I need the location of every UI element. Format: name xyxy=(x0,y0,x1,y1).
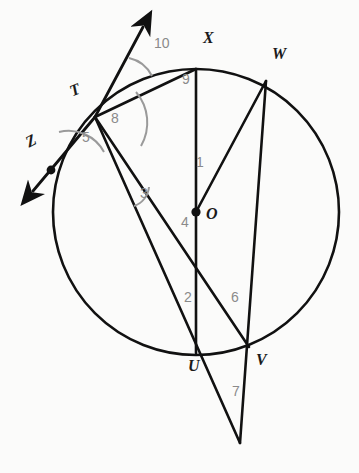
segment-W-to-apex xyxy=(240,81,266,443)
angle-label-10: 10 xyxy=(154,36,170,50)
angle-label-2: 2 xyxy=(184,290,192,304)
angle-label-1: 1 xyxy=(196,155,204,169)
angle-label-9: 9 xyxy=(182,72,190,86)
point-label-V: V xyxy=(256,352,267,368)
angle-label-5: 5 xyxy=(82,130,90,144)
center-dot xyxy=(191,207,200,216)
angle-label-6: 6 xyxy=(231,290,239,304)
segment-OW xyxy=(196,81,266,212)
angle-label-7: 7 xyxy=(232,384,240,398)
angle-arc-10 xyxy=(129,58,152,76)
angle-label-3: 3 xyxy=(140,186,148,200)
segment-T-to-apex-through-V xyxy=(95,117,240,443)
point-label-W: W xyxy=(272,46,286,62)
geometry-figure xyxy=(0,0,359,473)
point-label-O: O xyxy=(206,206,218,222)
point-label-U: U xyxy=(188,358,200,374)
angle-label-4: 4 xyxy=(181,215,189,229)
segment-T-to-V xyxy=(95,117,249,347)
diagram-page: X W T Z O U V 1 2 3 4 5 6 7 8 9 10 xyxy=(0,0,359,473)
tangent-point-dot-z xyxy=(47,166,56,175)
angle-arc-8 xyxy=(136,92,147,146)
point-label-X: X xyxy=(203,30,214,46)
tangent-ray-upper xyxy=(95,27,143,117)
angle-label-8: 8 xyxy=(111,111,119,125)
